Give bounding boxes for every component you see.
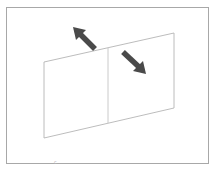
panel-outline bbox=[44, 33, 174, 138]
arrow-up-left-icon bbox=[73, 27, 95, 49]
outer-frame bbox=[7, 8, 209, 164]
arrow-down-right-icon bbox=[123, 52, 146, 74]
figure-svg bbox=[0, 0, 213, 172]
figure-canvas bbox=[0, 0, 213, 172]
stray-scan-mark: c bbox=[54, 160, 57, 165]
